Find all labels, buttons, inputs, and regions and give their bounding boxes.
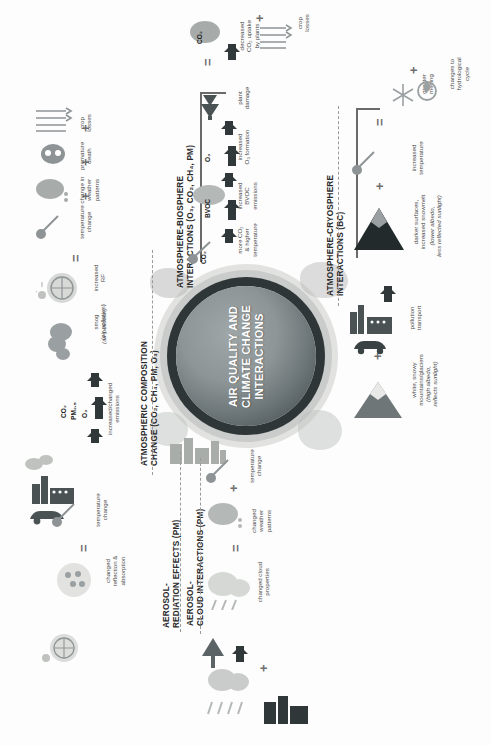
co2-cloud-icon [188,18,222,48]
storm-cloud-icon [34,176,72,206]
divider-cryosphere [338,106,339,306]
label-temperature-change-3: temperature change [248,440,263,492]
label-high-albedo: (high albedo, reflects sunlight) [424,348,439,420]
arrow-emissions-mid [91,373,99,387]
divider-aerosol-cloud [200,458,201,634]
label-darker-surfaces: darker surfaces, increased snowmelt [412,186,427,258]
thermometer-icon-3 [52,498,86,528]
operator-plus-cloud-0: + [256,664,271,672]
arrow-cloud-1 [236,646,244,662]
arrow-emissions-left [95,397,103,419]
smoke-plume-icon [24,452,58,472]
dead-tree-icon [192,88,228,120]
section-heading-aerosol-cloud: AEROSOL- CLOUD INTERACTIONS (PM) [186,436,206,626]
operator-equals-cloud: = [228,544,243,552]
operator-equals-radiation: = [76,544,91,552]
infographic-canvas: AIR QUALITY AND CLIMATE CHANGE INTERACTI… [0,0,491,745]
skull-icon [38,142,68,168]
tag-co2-biosphere: CO₂ [200,251,207,264]
label-increased-bvoc: increased BVOC emissions [236,170,258,222]
tag-bvoc: BVOC [204,199,211,218]
arrow-bvoc-left [228,200,236,220]
arrow-bio-2 [225,173,233,187]
tag-o3-composition: O₃ [81,410,88,418]
connector-cryosphere-arm [356,108,380,110]
water-drop-icon [414,76,440,104]
section-heading-aerosol-radiation: AEROSOL- REDIATION EFFECTS (PM) [162,448,182,628]
label-changed-cloud-properties: changed cloud properties [256,550,271,614]
operator-plus-cryo-2: + [406,66,421,74]
label-lower-albedo: (lower albedo, less reflected sunlight) [428,188,443,264]
divider-aerosol-radiation [180,452,181,632]
arrow-bio-3 [225,121,233,135]
thermometer-icon-4 [206,454,240,484]
arrow-cryo-1 [384,286,392,302]
sun-reflection-icon [40,628,84,670]
operator-equals-biosphere: = [200,58,215,66]
snowflake-icon [390,82,416,108]
arrow-bio-1 [225,229,233,243]
thermometer-icon [36,210,70,240]
label-increased-rf: increased RF [92,256,107,300]
operator-plus-cryo-1: + [372,182,387,190]
label-temperature-change-2: temperature change [94,484,109,536]
label-pollution-transport: pollution transport [408,296,423,340]
center-title: AIR QUALITY AND CLIMATE CHANGE INTERACTI… [176,286,316,426]
tag-co2-uptake: CO₂ [196,31,203,44]
wheat-icon-2 [258,22,294,50]
rain-lines-icon [206,700,254,734]
label-changed-weather: changed weather patterns [250,498,272,544]
city-icon-2 [262,690,312,724]
label-crop-losses-1: crop losses [78,106,93,140]
label-air-pollution: (air pollution) [100,300,107,352]
label-increased-temperature: increased temperature [410,132,425,184]
label-increased-emissions: increased/changed emissions [106,380,121,438]
label-plant-damage: plant damage [236,78,251,118]
tag-o3-biosphere: O₃ [204,154,211,162]
factory-icon-2 [348,300,394,334]
arrow-emissions-up [91,429,99,443]
section-heading-atmospheric-composition: ATMOSPHERIC COMPOSITION CHANGE (CO₂, CH₄… [140,236,160,466]
label-increased-o3: increased O₃ formation [236,122,251,172]
label-crop-losses-2: crop losses [296,6,311,40]
arrow-o3-left [228,146,236,166]
mountain-icon-white [352,380,404,420]
tag-pm25-composition: PM₂.₅ [70,402,77,420]
storm-cloud-icon-2 [206,500,246,532]
cloud-icon [206,660,252,700]
radiation-globe-icon [36,268,80,310]
section-heading-atmosphere-cryosphere: ATMOSPHERE-CRYOSPHERE INTERACTIONS (BC) [326,90,346,296]
label-white-mountains: white, snowy mountains/glaciers [410,344,425,416]
label-changed-reflection: changed reflection & absorption [104,542,126,600]
label-hydrological-cycle: changes to hydrological cycle [448,48,470,100]
central-globe: AIR QUALITY AND CLIMATE CHANGE INTERACTI… [176,286,316,426]
wheat-icon [34,104,74,134]
thermometer-icon-2 [352,146,386,176]
particle-cluster-icon [54,560,94,600]
operator-plus-cloud-1: + [226,484,241,492]
decor-blob-3 [298,410,342,450]
changed-cloud-icon [206,566,252,610]
arrow-uptake [228,44,236,60]
operator-plus-bio: + [252,14,267,22]
operator-equals-composition: = [68,254,83,262]
smog-cloud-icon [44,320,78,364]
divider-composition [152,250,153,475]
mountain-icon-dark [352,206,406,252]
operator-equals-cryo: = [372,118,387,126]
tag-co2-composition: CO₂ [60,405,67,418]
label-premature-death: premature death [78,134,93,178]
car-icon-2 [350,336,390,356]
